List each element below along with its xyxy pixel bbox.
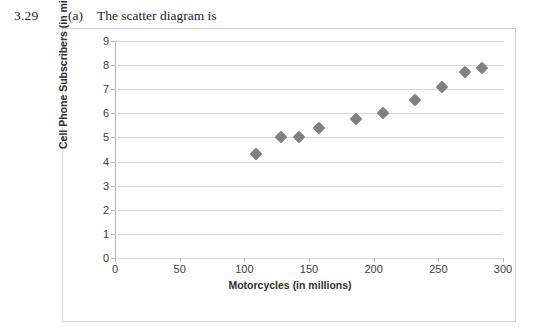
y-tick-label: 3: [89, 180, 109, 192]
page-title: The scatter diagram is: [97, 8, 217, 24]
data-point-marker: [376, 107, 389, 120]
x-tick-mark: [180, 258, 181, 262]
data-point-marker: [476, 61, 489, 74]
y-tick-mark: [111, 210, 115, 211]
scatter-chart: Cell Phone Subscribers (in millions) 012…: [62, 28, 516, 322]
gridline: [115, 210, 503, 211]
x-tick-label: 150: [289, 263, 329, 275]
y-axis-title: Cell Phone Subscribers (in millions): [57, 0, 69, 149]
x-tick-label: 300: [483, 263, 523, 275]
x-tick-label: 100: [224, 263, 264, 275]
data-point-marker: [409, 94, 422, 107]
x-tick-label: 200: [354, 263, 394, 275]
y-tick-mark: [111, 186, 115, 187]
y-tick-label: 4: [89, 156, 109, 168]
gridline: [115, 65, 503, 66]
x-axis-title: Motorcycles (in millions): [63, 279, 517, 291]
y-tick-mark: [111, 137, 115, 138]
x-tick-mark: [503, 258, 504, 262]
y-tick-mark: [111, 162, 115, 163]
gridline: [115, 186, 503, 187]
plot-area: [115, 41, 503, 258]
gridline: [115, 234, 503, 235]
part-label: (a): [68, 8, 83, 24]
y-tick-label: 9: [89, 35, 109, 47]
y-tick-mark: [111, 234, 115, 235]
y-tick-mark: [111, 89, 115, 90]
x-tick-mark: [438, 258, 439, 262]
x-tick-label: 50: [160, 263, 200, 275]
data-point-marker: [436, 80, 449, 93]
y-tick-mark: [111, 113, 115, 114]
x-tick-mark: [244, 258, 245, 262]
y-tick-label: 2: [89, 204, 109, 216]
data-point-marker: [274, 131, 287, 144]
y-tick-mark: [111, 41, 115, 42]
gridline: [115, 41, 503, 42]
data-point-marker: [349, 113, 362, 126]
gridline: [115, 162, 503, 163]
y-tick-label: 1: [89, 228, 109, 240]
x-tick-mark: [309, 258, 310, 262]
x-tick-mark: [374, 258, 375, 262]
y-tick-mark: [111, 65, 115, 66]
gridline: [115, 137, 503, 138]
data-point-marker: [292, 131, 305, 144]
x-tick-label: 0: [95, 263, 135, 275]
y-tick-label: 5: [89, 131, 109, 143]
data-point-marker: [313, 121, 326, 134]
x-tick-mark: [115, 258, 116, 262]
y-tick-label: 6: [89, 107, 109, 119]
gridline: [115, 113, 503, 114]
y-tick-label: 7: [89, 83, 109, 95]
y-axis-line: [115, 41, 116, 258]
y-tick-label: 8: [89, 59, 109, 71]
data-point-marker: [459, 66, 472, 79]
data-point-marker: [250, 148, 263, 161]
problem-number: 3.29: [14, 8, 38, 24]
x-tick-label: 250: [418, 263, 458, 275]
